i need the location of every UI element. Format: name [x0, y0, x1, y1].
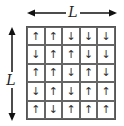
- spin-down-icon: ↓: [97, 45, 115, 63]
- spin-down-icon: ↓: [97, 27, 115, 45]
- spin-up-icon: ↑: [97, 82, 115, 100]
- spin-up-icon: ↑: [97, 101, 115, 119]
- spin-lattice-grid: ↑↑↓↓↓↓↑↑↓↓↑↑↓↑↓↓↑↓↑↑↑↓↑↑↑: [26, 26, 116, 120]
- spin-up-icon: ↑: [27, 64, 45, 82]
- spin-down-icon: ↓: [45, 101, 63, 119]
- spin-up-icon: ↑: [45, 64, 63, 82]
- spin-down-icon: ↓: [62, 64, 80, 82]
- spin-down-icon: ↓: [27, 82, 45, 100]
- spin-up-icon: ↑: [80, 64, 98, 82]
- vertical-length-label: L: [4, 72, 18, 88]
- spin-up-icon: ↑: [62, 101, 80, 119]
- spin-down-icon: ↓: [97, 64, 115, 82]
- spin-up-icon: ↑: [80, 101, 98, 119]
- spin-up-icon: ↑: [45, 82, 63, 100]
- spin-up-icon: ↑: [27, 27, 45, 45]
- spin-down-icon: ↓: [62, 27, 80, 45]
- spin-down-icon: ↓: [27, 45, 45, 63]
- spin-down-icon: ↓: [80, 45, 98, 63]
- spin-up-icon: ↑: [27, 101, 45, 119]
- spin-up-icon: ↑: [62, 45, 80, 63]
- spin-up-icon: ↑: [80, 82, 98, 100]
- spin-down-icon: ↓: [80, 27, 98, 45]
- horizontal-length-label: L: [66, 4, 80, 20]
- spin-up-icon: ↑: [45, 27, 63, 45]
- spin-up-icon: ↑: [45, 45, 63, 63]
- spin-down-icon: ↓: [62, 82, 80, 100]
